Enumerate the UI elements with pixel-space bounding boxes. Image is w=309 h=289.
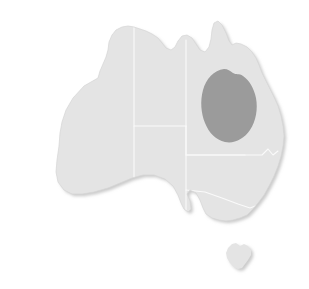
tasmania-shape bbox=[226, 243, 251, 269]
australia-landmass-group bbox=[56, 21, 284, 269]
map-svg bbox=[0, 0, 309, 289]
australia-map-figure bbox=[0, 0, 309, 289]
